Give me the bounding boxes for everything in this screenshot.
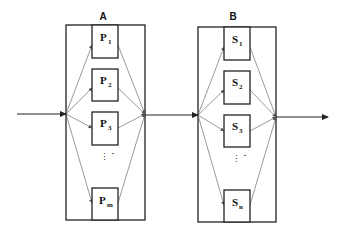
stage-a-fan-out (66, 45, 92, 203)
node-p3-base: P (100, 117, 107, 129)
node-p1-base: P (100, 31, 107, 43)
stage-b-fan-out (198, 47, 224, 205)
stage-a-dash: - (112, 148, 115, 158)
node-s3-base: S (232, 120, 238, 132)
node-s2-sub: 2 (239, 83, 243, 91)
diagram-canvas: A P 1 P 2 P 3 (0, 0, 341, 235)
node-p2: P 2 (92, 69, 118, 101)
node-sn: S n (224, 190, 250, 222)
node-s3-sub: 3 (239, 127, 243, 135)
stage-a-fan-in (118, 45, 145, 203)
stage-b-ellipsis: ⋮ (232, 154, 241, 164)
node-sn-sub: n (239, 203, 243, 211)
node-pm: P m (92, 188, 118, 220)
stage-a-ellipsis: ⋮ (100, 152, 109, 162)
node-p2-base: P (100, 74, 107, 86)
stage-b-dash: - (244, 150, 247, 160)
node-pm-base: P (99, 194, 106, 206)
node-s3: S 3 (224, 115, 250, 147)
node-p3: P 3 (92, 112, 118, 145)
node-s1: S 1 (224, 27, 250, 60)
node-p2-sub: 2 (108, 81, 112, 89)
node-s2-base: S (232, 76, 238, 88)
node-p1-sub: 1 (108, 38, 112, 46)
stage-a: A P 1 P 2 P 3 (66, 11, 145, 220)
stage-b-fan-in (250, 47, 276, 205)
stage-a-label: A (99, 11, 106, 22)
node-sn-base: S (232, 196, 238, 208)
node-s1-sub: 1 (239, 40, 243, 48)
node-p1: P 1 (92, 25, 118, 58)
node-p3-sub: 3 (108, 124, 112, 132)
node-s1-base: S (232, 33, 238, 45)
stage-b-label: B (229, 11, 236, 22)
node-s2: S 2 (224, 71, 250, 104)
node-pm-sub: m (107, 201, 113, 209)
stage-b: B S 1 S 2 S 3 (198, 11, 276, 222)
